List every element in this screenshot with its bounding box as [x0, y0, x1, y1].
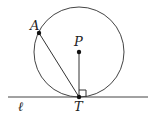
- label-P: P: [73, 34, 83, 49]
- point-P: [77, 50, 81, 54]
- label-line-l: ℓ: [18, 99, 24, 114]
- label-A: A: [29, 18, 39, 33]
- label-T: T: [74, 99, 84, 114]
- geometry-diagram: A P T ℓ: [0, 0, 157, 114]
- segment-AT: [39, 33, 79, 97]
